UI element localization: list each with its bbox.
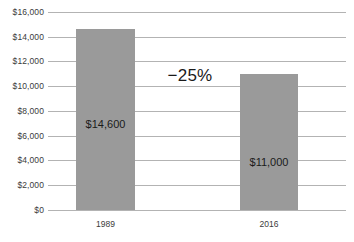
percent-change-annotation: −25% (140, 66, 240, 86)
y-axis-tick-label: $10,000 (0, 81, 44, 91)
x-axis-category-label-1989: 1989 (76, 219, 135, 229)
gridline-0 (48, 210, 346, 211)
bar-value-label-1989: $14,600 (76, 118, 135, 130)
bar-2016[interactable] (240, 74, 298, 210)
y-axis-tick-label: $6,000 (0, 131, 44, 141)
y-axis-tick-label: $0 (0, 205, 44, 215)
y-axis-tick-label: $8,000 (0, 106, 44, 116)
gridline-16000 (48, 12, 346, 13)
x-axis-category-label-2016: 2016 (240, 219, 298, 229)
bar-value-label-2016: $11,000 (240, 156, 298, 168)
y-axis-tick-label: $14,000 (0, 32, 44, 42)
y-axis-tick-label: $2,000 (0, 180, 44, 190)
y-axis-tick-label: $12,000 (0, 56, 44, 66)
y-axis-tick-label: $4,000 (0, 155, 44, 165)
bar-chart: $16,000 $14,000 $12,000 $10,000 $8,000 $… (0, 0, 354, 242)
y-axis-tick-label: $16,000 (0, 7, 44, 17)
